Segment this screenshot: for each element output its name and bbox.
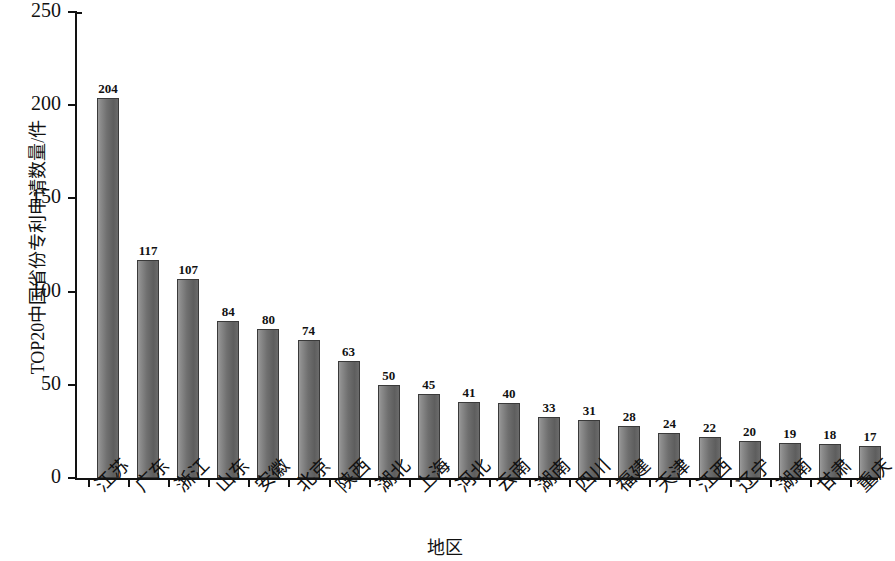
y-axis-title: TOP20中国省份专利申请数量/件 (23, 17, 49, 477)
y-axis-tick-label: 50 (41, 372, 61, 394)
bar-value-label: 107 (178, 263, 198, 277)
bar-value-label: 63 (342, 345, 355, 359)
x-axis-tick (329, 478, 331, 487)
bar-value-label: 22 (703, 421, 716, 435)
bar-value-label: 24 (663, 417, 676, 431)
x-axis-tick (609, 478, 611, 487)
y-axis-tick-label: 250 (31, 0, 61, 21)
y-axis-tick: 150 (68, 197, 77, 199)
bar-value-label: 20 (743, 425, 756, 439)
x-axis-tick (168, 478, 170, 487)
y-axis-line (75, 12, 77, 479)
y-axis-tick: 250 (68, 11, 77, 13)
x-axis-tick (369, 478, 371, 487)
x-axis-tick (529, 478, 531, 487)
x-axis-tick (128, 478, 130, 487)
bar-value-label: 17 (863, 430, 876, 444)
x-axis-tick (409, 478, 411, 487)
bar-value-label: 74 (302, 324, 315, 338)
x-axis-title: 地区 (0, 533, 889, 559)
x-axis-tick (850, 478, 852, 487)
bar: 84 (217, 321, 239, 478)
y-axis-tick-label: 200 (31, 92, 61, 114)
y-axis-tick-label: 150 (31, 185, 61, 207)
x-axis-tick (810, 478, 812, 487)
x-axis-tick (770, 478, 772, 487)
bar-value-label: 50 (382, 369, 395, 383)
bar-value-label: 19 (783, 427, 796, 441)
bar: 117 (137, 260, 159, 478)
x-axis-tick (649, 478, 651, 487)
y-axis-tick: 100 (68, 291, 77, 293)
bar-value-label: 33 (543, 401, 556, 415)
x-axis-tick (88, 478, 90, 487)
bar-value-label: 204 (98, 82, 118, 96)
x-axis-tick (449, 478, 451, 487)
x-axis-tick (569, 478, 571, 487)
x-axis-tick (288, 478, 290, 487)
bar-value-label: 28 (623, 410, 636, 424)
bar: 107 (177, 279, 199, 478)
bar-value-label: 18 (823, 428, 836, 442)
bar-value-label: 40 (503, 387, 516, 401)
y-axis-tick: 200 (68, 104, 77, 106)
bar-value-label: 84 (222, 305, 235, 319)
x-axis-tick (489, 478, 491, 487)
y-axis-tick: 0 (68, 477, 77, 479)
x-axis-tick (689, 478, 691, 487)
bar-value-label: 31 (583, 404, 596, 418)
x-axis-tick (208, 478, 210, 487)
x-axis-tick (730, 478, 732, 487)
y-axis-tick-label: 0 (51, 465, 61, 487)
y-axis-tick-label: 100 (31, 279, 61, 301)
plot-area: 050100150200250 204117107848074635045414… (75, 12, 878, 478)
bar-value-label: 80 (262, 313, 275, 327)
x-axis-tick (248, 478, 250, 487)
y-axis-tick: 50 (68, 384, 77, 386)
bar-value-label: 41 (462, 386, 475, 400)
bar: 204 (97, 98, 119, 478)
bar-value-label: 45 (422, 378, 435, 392)
bar-value-label: 117 (139, 244, 158, 258)
